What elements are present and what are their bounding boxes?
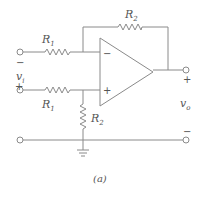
output-plus-sign: +	[183, 74, 191, 85]
figure-caption: (a)	[93, 173, 107, 184]
circuit-diagram: R2 R1 R1 − vi + − + + vo − R2 (a)	[0, 0, 199, 198]
output-terminal-minus	[183, 137, 189, 143]
r1-bottom-label: R1	[41, 98, 55, 113]
r1-top-resistor	[45, 49, 70, 55]
ground-icon	[77, 150, 89, 156]
output-terminal-plus	[183, 67, 189, 73]
r2-feedback-resistor	[118, 24, 142, 30]
r2-ground-resistor	[80, 104, 86, 129]
input-minus-sign: −	[16, 57, 24, 68]
input-terminal-minus	[17, 49, 23, 55]
input-plus-sign: +	[15, 81, 23, 92]
output-voltage-label: vo	[180, 97, 190, 112]
r2-ground-label: R2	[90, 112, 104, 127]
output-minus-sign: −	[183, 126, 191, 137]
r1-bottom-resistor	[45, 87, 70, 93]
opamp-inverting-sign: −	[103, 48, 111, 59]
bottom-left-terminal	[17, 137, 23, 143]
r2-feedback-label: R2	[124, 8, 138, 23]
r1-top-label: R1	[41, 33, 55, 48]
feedback-wire	[83, 27, 168, 70]
opamp-noninverting-sign: +	[103, 85, 111, 96]
